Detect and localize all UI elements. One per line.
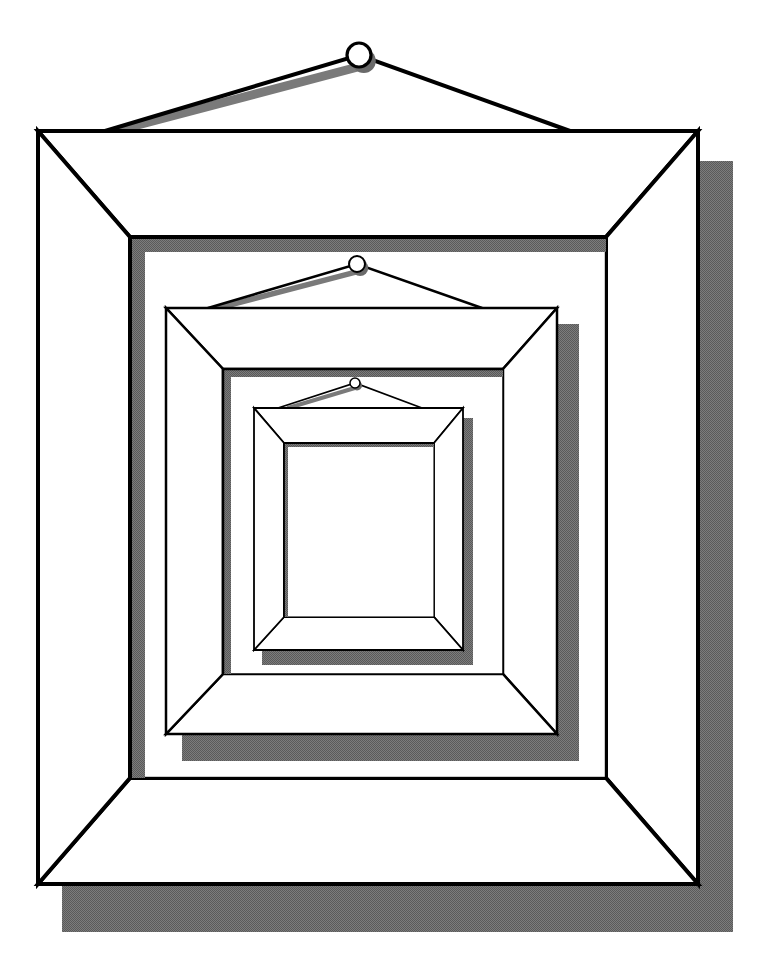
nail-icon — [350, 378, 360, 388]
nail-icon — [347, 43, 371, 67]
bevel-left — [166, 308, 223, 734]
bevel-bottom — [254, 617, 463, 650]
frame-opening — [284, 443, 434, 617]
bevel-bottom — [38, 778, 698, 884]
bevel-right — [434, 408, 463, 650]
bevel-left — [254, 408, 284, 650]
nested-frames-illustration — [0, 0, 768, 975]
bevel-right — [503, 308, 557, 734]
bevel-left — [38, 131, 130, 884]
string-shadow — [115, 66, 363, 131]
inner-frame — [254, 378, 473, 665]
bevel-bottom — [166, 674, 557, 734]
frames-group — [38, 43, 733, 932]
bevel-right — [606, 131, 698, 884]
bevel-top — [38, 131, 698, 237]
bevel-top — [166, 308, 557, 369]
nail-icon — [349, 256, 365, 272]
bevel-top — [254, 408, 463, 443]
